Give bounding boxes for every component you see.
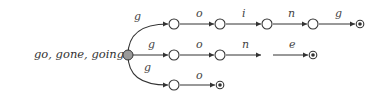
edge-label: n <box>242 38 249 51</box>
state-node <box>308 19 318 29</box>
edge-label: o <box>196 7 203 20</box>
state-node <box>262 19 272 29</box>
final-state-node-going <box>356 20 364 28</box>
state-node <box>215 19 225 29</box>
start-state-node <box>123 50 133 60</box>
edge-label: n <box>288 7 295 20</box>
edge-label: g <box>335 7 342 20</box>
edge-label: g <box>148 38 155 51</box>
state-node <box>169 50 179 60</box>
edge-label: o <box>196 38 203 51</box>
state-node <box>215 50 225 60</box>
edge-label: i <box>242 7 246 20</box>
edge-label: g <box>134 10 141 23</box>
state-node <box>169 19 179 29</box>
edge-label: e <box>289 38 296 51</box>
edge-label: g <box>144 61 151 74</box>
final-state-node-go <box>216 81 224 89</box>
state-node <box>169 80 179 90</box>
trie-automaton-diagram: g o i n g g o n e g o <box>0 0 374 100</box>
edge-label: o <box>196 69 203 82</box>
final-state-node-gone <box>309 51 317 59</box>
